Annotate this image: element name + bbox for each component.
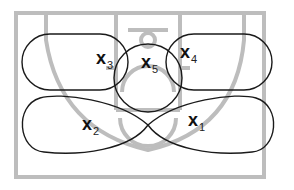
label-x5: x 5	[141, 52, 158, 75]
label-x4-number: 4	[191, 53, 197, 65]
label-x2-letter: x	[82, 114, 92, 134]
label-x4-letter: x	[180, 42, 190, 62]
label-x4: x 4	[180, 42, 197, 65]
label-x3: x 3	[96, 48, 113, 71]
label-x1-number: 1	[199, 121, 205, 133]
zone-defense-diagram: x 3 x 4 x 5 x 2 x 1	[0, 0, 294, 190]
label-x2-number: 2	[93, 125, 99, 137]
label-x3-number: 3	[107, 59, 113, 71]
label-x2: x 2	[82, 114, 99, 137]
label-x5-letter: x	[141, 52, 151, 72]
label-x1: x 1	[188, 110, 205, 133]
label-x1-letter: x	[188, 110, 198, 130]
free-throw-circle-bottom	[120, 118, 176, 146]
label-x3-letter: x	[96, 48, 106, 68]
label-x5-number: 5	[152, 63, 158, 75]
